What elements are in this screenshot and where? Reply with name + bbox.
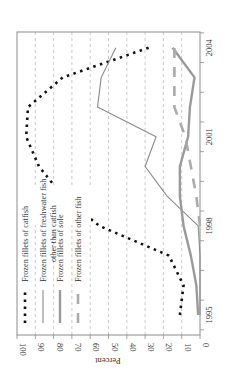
value-tick-label: 100 bbox=[18, 343, 28, 356]
legend: Frozen fillets of catfishFrozen fillets … bbox=[19, 150, 91, 330]
value-tick-label: 20 bbox=[164, 343, 174, 352]
value-tick-label: 60 bbox=[91, 343, 101, 352]
series-line-1 bbox=[98, 48, 200, 315]
legend-label-3: Frozen fillets of other fish bbox=[74, 197, 83, 283]
value-tick-label: 90 bbox=[36, 343, 46, 352]
value-tick-label: 30 bbox=[146, 343, 156, 352]
year-tick-label: 1998 bbox=[204, 217, 214, 234]
year-tick-label: 2004 bbox=[204, 38, 214, 56]
value-tick-label: 10 bbox=[183, 343, 193, 352]
value-tick-label: 0 bbox=[201, 343, 211, 347]
year-axis-ticks bbox=[200, 33, 204, 330]
legend-label-0: Frozen fillets of catfish bbox=[21, 206, 30, 282]
rotated-line-chart: Frozen fillets of catfishFrozen fillets … bbox=[0, 0, 235, 385]
value-axis-ticks bbox=[17, 335, 200, 339]
value-tick-label: 70 bbox=[73, 343, 83, 352]
year-tick-label: 2001 bbox=[204, 128, 214, 145]
value-tick-label: 50 bbox=[110, 343, 120, 352]
value-axis-title: Percent bbox=[95, 356, 121, 366]
value-tick-label: 80 bbox=[55, 343, 65, 352]
year-tick-labels: 1995199820012004 bbox=[204, 38, 214, 323]
value-tick-labels: 0102030405060708090100 bbox=[18, 343, 211, 356]
legend-label-2: Frozen fillets of sole bbox=[56, 214, 65, 282]
year-tick-label: 1995 bbox=[204, 307, 214, 324]
legend-label-1: Frozen fillets of freshwater fish bbox=[39, 179, 48, 282]
value-tick-label: 40 bbox=[128, 343, 138, 352]
